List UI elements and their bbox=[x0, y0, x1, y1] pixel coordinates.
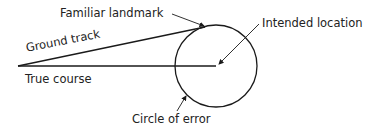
landmark-arrow bbox=[172, 14, 204, 26]
circle-of-error-label: Circle of error bbox=[132, 114, 211, 126]
intended-location-arrow bbox=[219, 24, 259, 64]
navigation-error-diagram: Familiar landmark Intended location Grou… bbox=[0, 0, 385, 132]
intended-location-label: Intended location bbox=[262, 18, 363, 30]
familiar-landmark-label: Familiar landmark bbox=[60, 8, 163, 20]
circle-of-error-arrow bbox=[177, 96, 186, 111]
true-course-label: True course bbox=[25, 74, 92, 86]
